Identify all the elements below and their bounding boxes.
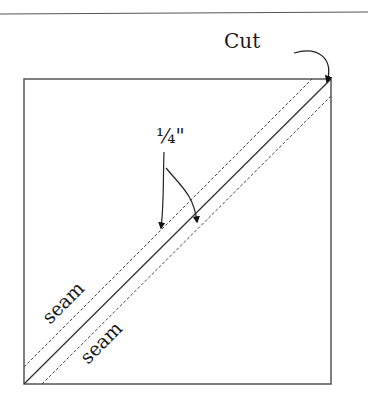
seam-label-upper: seam	[37, 277, 88, 328]
cut-arrow	[294, 51, 329, 82]
seam-label-lower: seam	[75, 317, 126, 368]
quarter-inch-arrow-left	[161, 152, 164, 228]
quilt-square-diagram: Cut ¼" seam seam	[0, 0, 368, 413]
quarter-inch-label: ¼"	[156, 124, 185, 148]
top-rule	[0, 12, 368, 14]
seam-line-upper	[24, 79, 312, 367]
cut-label: Cut	[224, 29, 260, 53]
quarter-inch-arrow-right	[166, 168, 197, 222]
seam-line-lower	[42, 96, 331, 384]
